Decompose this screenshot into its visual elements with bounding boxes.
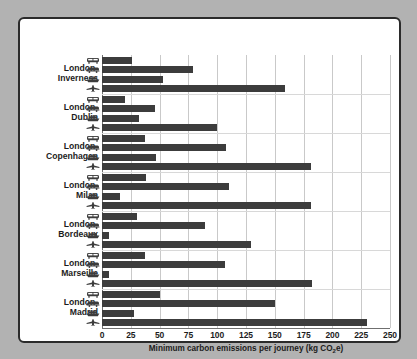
plane-icon: [84, 85, 100, 92]
x-tick-label-250: 250: [383, 330, 397, 340]
plane-icon: [84, 163, 100, 170]
bar-row[interactable]: [102, 76, 390, 83]
coach-icon: [84, 183, 100, 190]
bar-row[interactable]: [102, 291, 390, 298]
bar-row[interactable]: [102, 280, 390, 287]
bar-london-milan-train[interactable]: [102, 174, 146, 181]
train-icon: [84, 291, 100, 298]
train-icon: [84, 252, 100, 259]
gridline-250: [390, 55, 391, 328]
x-tick-label-175: 175: [297, 330, 311, 340]
bar-row[interactable]: [102, 115, 390, 122]
x-axis-title: Minimum carbon emissions per journey (kg…: [102, 344, 390, 353]
bar-row[interactable]: [102, 202, 390, 209]
coach-icon: [84, 261, 100, 268]
x-axis-title-prefix: Minimum carbon emissions per journey (kg…: [149, 344, 333, 353]
x-tick-label-50: 50: [155, 330, 164, 340]
bar-london-milan-plane[interactable]: [102, 202, 311, 209]
bar-row[interactable]: [102, 154, 390, 161]
x-tick-label-150: 150: [268, 330, 282, 340]
x-tick-label-200: 200: [325, 330, 339, 340]
bar-row[interactable]: [102, 310, 390, 317]
bar-row[interactable]: [102, 135, 390, 142]
ferry-icon: [84, 193, 100, 200]
ferry-icon: [84, 115, 100, 122]
bar-london-milan-ferry[interactable]: [102, 193, 120, 200]
bar-row[interactable]: [102, 124, 390, 131]
bar-london-copenhagen-plane[interactable]: [102, 163, 311, 170]
bar-row[interactable]: [102, 105, 390, 112]
coach-icon: [84, 222, 100, 229]
transport-mode-icon-column: [80, 55, 100, 328]
x-axis-title-sub: 2: [333, 348, 336, 354]
bar-london-inverness-coach[interactable]: [102, 66, 193, 73]
plane-icon: [84, 124, 100, 131]
bar-london-marseille-ferry[interactable]: [102, 271, 109, 278]
coach-icon: [84, 300, 100, 307]
coach-icon: [84, 144, 100, 151]
x-tick-label-25: 25: [126, 330, 135, 340]
plane-icon: [84, 241, 100, 248]
train-icon: [84, 213, 100, 220]
coach-icon: [84, 66, 100, 73]
plot-area: [102, 55, 390, 328]
ferry-icon: [84, 76, 100, 83]
bar-row[interactable]: [102, 261, 390, 268]
x-tick-label-75: 75: [184, 330, 193, 340]
x-axis-line: [102, 328, 390, 329]
bar-row[interactable]: [102, 271, 390, 278]
bar-london-dublin-plane[interactable]: [102, 124, 217, 131]
bar-london-madrid-ferry[interactable]: [102, 310, 134, 317]
bar-london-madrid-plane[interactable]: [102, 319, 367, 326]
x-tick-label-100: 100: [210, 330, 224, 340]
bar-row[interactable]: [102, 241, 390, 248]
coach-icon: [84, 105, 100, 112]
bar-row[interactable]: [102, 319, 390, 326]
plane-icon: [84, 202, 100, 209]
bar-row[interactable]: [102, 193, 390, 200]
bar-row[interactable]: [102, 85, 390, 92]
train-icon: [84, 135, 100, 142]
bar-london-bordeaux-plane[interactable]: [102, 241, 251, 248]
train-icon: [84, 57, 100, 64]
x-axis-title-suffix: e): [336, 344, 343, 353]
bar-london-marseille-train[interactable]: [102, 252, 145, 259]
bar-row[interactable]: [102, 57, 390, 64]
bar-row[interactable]: [102, 213, 390, 220]
bar-row[interactable]: [102, 144, 390, 151]
bar-london-dublin-coach[interactable]: [102, 105, 155, 112]
bar-row[interactable]: [102, 252, 390, 259]
ferry-icon: [84, 154, 100, 161]
bar-london-inverness-train[interactable]: [102, 57, 132, 64]
bar-london-madrid-coach[interactable]: [102, 300, 275, 307]
bar-london-copenhagen-coach[interactable]: [102, 144, 226, 151]
train-icon: [84, 174, 100, 181]
bar-london-madrid-train[interactable]: [102, 291, 160, 298]
bar-london-bordeaux-train[interactable]: [102, 213, 137, 220]
x-tick-label-0: 0: [100, 330, 105, 340]
bar-london-copenhagen-ferry[interactable]: [102, 154, 156, 161]
bar-london-inverness-plane[interactable]: [102, 85, 285, 92]
bar-london-copenhagen-train[interactable]: [102, 135, 145, 142]
bar-london-marseille-plane[interactable]: [102, 280, 312, 287]
bar-london-bordeaux-ferry[interactable]: [102, 232, 109, 239]
plane-icon: [84, 319, 100, 326]
bar-row[interactable]: [102, 163, 390, 170]
bar-row[interactable]: [102, 222, 390, 229]
bar-london-marseille-coach[interactable]: [102, 261, 225, 268]
x-tick-label-125: 125: [239, 330, 253, 340]
ferry-icon: [84, 310, 100, 317]
bar-row[interactable]: [102, 183, 390, 190]
bar-london-milan-coach[interactable]: [102, 183, 229, 190]
bar-london-dublin-ferry[interactable]: [102, 115, 139, 122]
bar-row[interactable]: [102, 300, 390, 307]
bar-london-inverness-ferry[interactable]: [102, 76, 163, 83]
train-icon: [84, 96, 100, 103]
plane-icon: [84, 280, 100, 287]
bar-row[interactable]: [102, 174, 390, 181]
bar-london-dublin-train[interactable]: [102, 96, 125, 103]
bar-row[interactable]: [102, 96, 390, 103]
bar-row[interactable]: [102, 66, 390, 73]
bar-row[interactable]: [102, 232, 390, 239]
bar-london-bordeaux-coach[interactable]: [102, 222, 205, 229]
